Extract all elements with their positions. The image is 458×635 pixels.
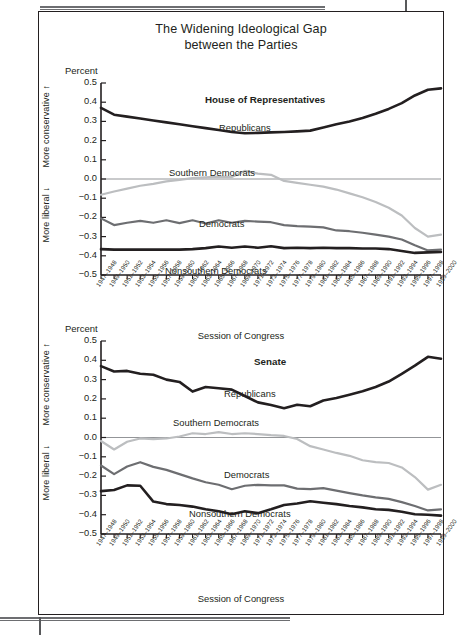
panel-title-senate: Senate [254, 356, 286, 367]
y-axis-tick-label: 0.0 [71, 173, 97, 183]
series-label-republicans-senate: Republicans [224, 388, 276, 399]
y-axis-tick-label: −0.5 [71, 269, 97, 279]
y-axis-tick-label: 0.5 [71, 335, 97, 345]
y-axis-tick-label: 0.1 [71, 412, 97, 422]
series-label-republicans-house: Republicans [219, 122, 271, 133]
y-axis-tick-label: 0.2 [71, 393, 97, 403]
y-axis-more-conservative-senate: More conservative ↑ [41, 343, 51, 425]
y-axis-tick-label: 0.4 [71, 354, 97, 364]
decorative-rule-bottom [0, 617, 290, 619]
y-axis-tick-label: 0.4 [71, 96, 97, 106]
series-label-democrats-senate: Democrats [224, 469, 269, 480]
y-axis-tick-label: −0.4 [71, 509, 97, 519]
y-axis-tick-label: −0.4 [71, 250, 97, 260]
series-line-democrats [101, 462, 441, 510]
figure-title-line-1: The Widening Ideological Gap [39, 21, 443, 37]
chart-svg [63, 336, 443, 586]
series-label-nonsouthern-democrats-house: Nonsouthern Democrats [165, 265, 267, 276]
y-axis-tick-label: −0.1 [71, 192, 97, 202]
y-axis-tick-label: 0.5 [71, 77, 97, 87]
y-axis-more-conservative-house: More conservative ↑ [41, 85, 51, 167]
decorative-rule-top [40, 6, 325, 8]
decorative-tick-bottom [39, 617, 41, 635]
series-label-democrats-house: Democrats [199, 218, 244, 229]
series-label-southern-democrats-house: Southern Democrats [169, 167, 255, 178]
series-label-nonsouthern-democrats-senate: Nonsouthern Democrats [189, 508, 291, 519]
y-axis-tick-label: −0.1 [71, 451, 97, 461]
y-axis-tick-label: 0.3 [71, 115, 97, 125]
decorative-rule-top-thin [40, 9, 325, 10]
series-label-southern-democrats-senate: Southern Democrats [173, 417, 259, 428]
y-axis-tick-label: 0.3 [71, 374, 97, 384]
y-axis-tick-label: −0.3 [71, 489, 97, 499]
y-axis-tick-label: −0.2 [71, 211, 97, 221]
x-axis-title-senate: Session of Congress [39, 593, 443, 604]
figure-title: The Widening Ideological Gap between the… [39, 21, 443, 53]
panel-title-house: House of Representatives [205, 94, 325, 105]
y-axis-tick-label: 0.1 [71, 154, 97, 164]
series-line-southern-democrats [101, 432, 441, 490]
decorative-rule-bottom-thin [0, 620, 290, 621]
plot-area-house: 0.50.40.30.20.10.0−0.1−0.2−0.3−0.4−0.519… [63, 78, 443, 323]
chart-panel-house: Percent More conservative ↑ More liberal… [39, 65, 443, 345]
y-axis-unit-label-house: Percent [65, 65, 98, 76]
y-axis-tick-label: −0.2 [71, 470, 97, 480]
y-axis-more-liberal-house: More liberal ↓ [41, 187, 51, 242]
chart-panel-senate: Percent More conservative ↑ More liberal… [39, 323, 443, 608]
y-axis-tick-label: −0.5 [71, 528, 97, 538]
y-axis-tick-label: 0.0 [71, 432, 97, 442]
series-line-nonsouthern-democrats [101, 246, 441, 253]
figure-title-line-2: between the Parties [39, 37, 443, 53]
figure-frame: The Widening Ideological Gap between the… [38, 11, 444, 615]
y-axis-unit-label-senate: Percent [65, 323, 98, 334]
y-axis-more-liberal-senate: More liberal ↓ [41, 445, 51, 500]
y-axis-tick-label: 0.2 [71, 135, 97, 145]
series-line-southern-democrats [101, 171, 441, 237]
plot-area-senate: 0.50.40.30.20.10.0−0.1−0.2−0.3−0.4−0.519… [63, 336, 443, 586]
y-axis-tick-label: −0.3 [71, 231, 97, 241]
